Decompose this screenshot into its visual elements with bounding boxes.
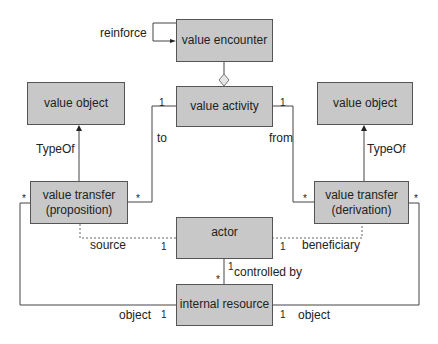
mult-actor-right: 1	[280, 242, 286, 252]
object-right-label: object	[298, 308, 330, 322]
mult-actor-left: 1	[161, 242, 167, 252]
mult-resource-right: 1	[280, 310, 286, 320]
beneficiary-label: beneficiary	[302, 238, 360, 252]
mult-resource-left: 1	[161, 310, 167, 320]
value-encounter-box[interactable]: value encounter	[176, 19, 273, 62]
internal-resource-box[interactable]: internal resource	[176, 284, 273, 326]
value-transfer-proposition-line1: value transfer	[43, 188, 116, 203]
value-encounter-label: value encounter	[182, 33, 267, 48]
value-transfer-proposition-box[interactable]: value transfer (proposition)	[30, 181, 128, 224]
mult-activity-right: 1	[280, 98, 286, 108]
source-label: source	[90, 238, 126, 252]
value-object-right-box[interactable]: value object	[317, 82, 413, 125]
mult-resource-top: *	[216, 275, 220, 285]
typeof-left-label: TypeOf	[36, 142, 75, 156]
value-transfer-derivation-line1: value transfer	[325, 188, 398, 203]
value-object-right-label: value object	[333, 96, 397, 111]
actor-label: actor	[211, 225, 238, 240]
value-object-left-box[interactable]: value object	[27, 82, 125, 125]
value-transfer-derivation-box[interactable]: value transfer (derivation)	[314, 181, 409, 224]
to-label: to	[157, 131, 167, 145]
mult-activity-left: 1	[159, 98, 165, 108]
from-label: from	[269, 131, 293, 145]
value-transfer-proposition-line2: (proposition)	[46, 203, 113, 218]
value-transfer-derivation-line2: (derivation)	[331, 203, 391, 218]
mult-derivation-right: *	[414, 194, 418, 204]
reinforce-label: reinforce	[100, 26, 147, 40]
value-activity-box[interactable]: value activity	[176, 86, 273, 127]
internal-resource-label: internal resource	[180, 297, 269, 312]
mult-proposition-right: *	[136, 194, 140, 204]
mult-actor-bottom: 1	[228, 262, 234, 272]
controlled-by-label: controlled by	[234, 265, 302, 279]
typeof-right-label: TypeOf	[367, 142, 406, 156]
value-object-left-label: value object	[44, 96, 108, 111]
actor-box[interactable]: actor	[176, 217, 273, 259]
object-left-label: object	[119, 308, 151, 322]
mult-derivation-left: *	[303, 194, 307, 204]
value-activity-label: value activity	[190, 99, 259, 114]
mult-proposition-left: *	[22, 194, 26, 204]
